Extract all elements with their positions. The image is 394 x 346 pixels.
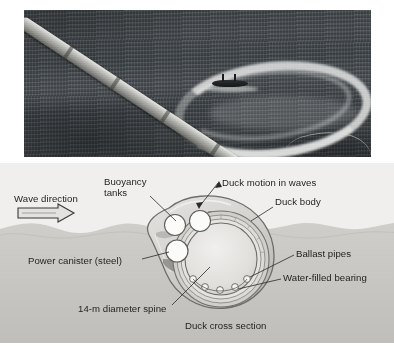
label-duck-motion-in-waves: Duck motion in waves: [222, 177, 316, 188]
label-power-canister: Power canister (steel): [28, 255, 122, 266]
photo-grain-overlay: [24, 10, 371, 157]
label-buoyancy-tanks: Buoyancy tanks: [104, 176, 156, 198]
power-canister-steel: [166, 240, 188, 262]
label-duck-body: Duck body: [275, 196, 321, 207]
buoyancy-tank: [190, 211, 211, 232]
duck-cross-section-diagram: the bed of the ocean so that it can be a…: [0, 163, 394, 343]
label-ballast-pipes: Ballast pipes: [296, 248, 351, 259]
figure-duck-wave-energy-converter: the bed of the ocean so that it can be a…: [0, 0, 394, 346]
buoyancy-tank: [165, 215, 186, 236]
spine-core: [185, 223, 257, 295]
label-duck-cross-section: Duck cross section: [185, 320, 266, 331]
ballast-pipe: [217, 287, 224, 294]
label-spine-diameter: 14-m diameter spine: [78, 303, 166, 314]
label-water-filled-bearing: Water-filled bearing: [283, 272, 367, 283]
photograph-duck-spine-at-sea: [24, 10, 371, 157]
label-wave-direction: Wave direction: [14, 193, 78, 204]
